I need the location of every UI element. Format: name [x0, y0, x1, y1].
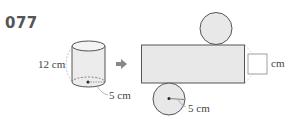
- right-arrow-icon: [116, 59, 127, 69]
- net-radius-label: 5 cm: [188, 102, 210, 114]
- cylinder-height-label: 12 cm: [38, 58, 66, 70]
- answer-unit-label: cm: [271, 57, 285, 69]
- cylinder-radius-label: 5 cm: [109, 89, 131, 101]
- net-rectangle: [142, 45, 245, 83]
- cylinder-net: [142, 13, 254, 116]
- cylinder-figure: [66, 41, 108, 95]
- net-top-circle: [200, 13, 232, 45]
- answer-box[interactable]: [248, 54, 267, 74]
- diagram: 12 cm 5 cm cm 5 cm: [0, 0, 297, 131]
